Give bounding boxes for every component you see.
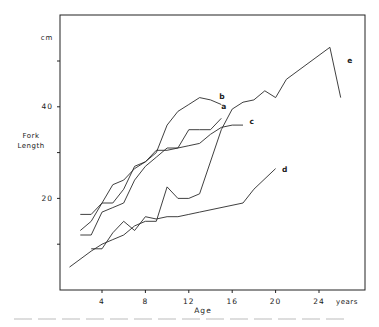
y-unit-label: cm (41, 34, 54, 42)
x-tick-label: 12 (183, 297, 195, 306)
series-label-e: e (347, 56, 352, 65)
x-tick-label: 20 (270, 297, 282, 306)
y-tick-label: 20 (41, 194, 53, 203)
x-axis-ticks: 4812162024 (99, 290, 325, 306)
series-label-c: c (250, 117, 254, 126)
y-axis-title-line1: Fork (23, 132, 40, 140)
x-tick-label: 24 (313, 297, 325, 306)
x-tick-label: 4 (99, 297, 105, 306)
series-line-b (80, 98, 221, 231)
plot-frame (60, 15, 365, 290)
x-unit-label: years (336, 298, 358, 306)
y-axis-title-line2: Length (17, 142, 44, 150)
series-labels: abcde (219, 56, 352, 174)
x-tick-label: 16 (226, 297, 238, 306)
series-line-e (70, 47, 341, 267)
growth-chart: 2040 4812162024 abcde cm Fork Length Age… (0, 0, 379, 327)
series-label-b: b (219, 92, 225, 101)
x-tick-label: 8 (143, 297, 149, 306)
series-label-a: a (221, 102, 226, 111)
series-label-d: d (282, 165, 287, 174)
figure-caption-cropped (14, 318, 344, 320)
series-lines (70, 47, 341, 267)
y-axis-ticks: 2040 (41, 61, 60, 244)
y-tick-label: 40 (41, 102, 53, 111)
x-axis-title: Age (194, 306, 212, 315)
